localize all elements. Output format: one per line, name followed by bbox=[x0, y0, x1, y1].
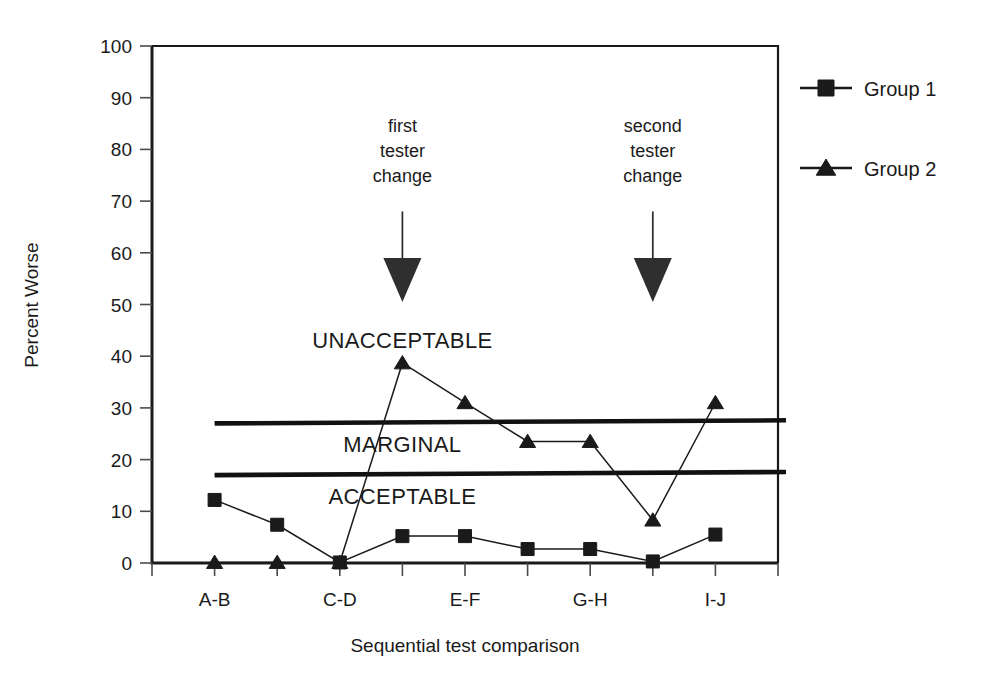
y-axis-title: Percent Worse bbox=[21, 242, 42, 367]
threshold-line-upper bbox=[215, 420, 786, 423]
tester-change-annotations: firsttesterchangesecondtesterchange bbox=[373, 116, 682, 302]
y-tick-label: 10 bbox=[111, 501, 132, 522]
legend-label: Group 1 bbox=[864, 78, 936, 100]
y-tick-label: 60 bbox=[111, 243, 132, 264]
annotation-text-line: tester bbox=[380, 141, 425, 161]
chart-canvas: 0102030405060708090100 A-BC-DE-FG-HI-J U… bbox=[0, 0, 987, 682]
annotation-arrow-head-icon bbox=[634, 258, 672, 302]
chart-figure: 0102030405060708090100 A-BC-DE-FG-HI-J U… bbox=[0, 0, 987, 682]
data-point-square bbox=[646, 555, 659, 568]
data-series bbox=[207, 356, 724, 569]
data-point-square bbox=[584, 543, 597, 556]
x-tick-label: A-B bbox=[199, 589, 231, 610]
annotation-text-line: change bbox=[623, 166, 682, 186]
y-tick-label: 50 bbox=[111, 295, 132, 316]
legend-label: Group 2 bbox=[864, 158, 936, 180]
data-point-square bbox=[459, 530, 472, 543]
chart-legend: Group 1Group 2 bbox=[800, 78, 936, 180]
data-point-triangle bbox=[645, 513, 661, 526]
y-tick-label: 40 bbox=[111, 346, 132, 367]
y-tick-label: 90 bbox=[111, 88, 132, 109]
y-tick-label: 30 bbox=[111, 398, 132, 419]
y-tick-label: 20 bbox=[111, 450, 132, 471]
y-tick-label: 0 bbox=[121, 553, 132, 574]
x-tick-label: E-F bbox=[450, 589, 481, 610]
data-point-square bbox=[709, 528, 722, 541]
zone-label: UNACCEPTABLE bbox=[312, 328, 492, 353]
data-point-square bbox=[521, 543, 534, 556]
x-axis-labels: A-BC-DE-FG-HI-J bbox=[199, 589, 726, 610]
annotation-arrow-head-icon bbox=[383, 258, 421, 302]
threshold-line-lower bbox=[215, 472, 786, 475]
zone-label: ACCEPTABLE bbox=[328, 484, 476, 509]
annotation-text-line: second bbox=[624, 116, 682, 136]
square-marker-icon bbox=[818, 80, 834, 96]
data-point-triangle bbox=[394, 356, 410, 369]
data-point-triangle bbox=[707, 395, 723, 408]
data-point-square bbox=[271, 518, 284, 531]
y-tick-label: 100 bbox=[100, 36, 132, 57]
annotation-text-line: tester bbox=[630, 141, 675, 161]
y-tick-label: 70 bbox=[111, 191, 132, 212]
data-point-square bbox=[396, 530, 409, 543]
threshold-lines bbox=[215, 420, 786, 475]
x-tick-label: C-D bbox=[323, 589, 357, 610]
x-tick-label: G-H bbox=[573, 589, 608, 610]
zone-label: MARGINAL bbox=[343, 432, 461, 457]
annotation-text-line: change bbox=[373, 166, 432, 186]
data-point-square bbox=[208, 493, 221, 506]
annotation-text-line: first bbox=[388, 116, 417, 136]
x-tick-label: I-J bbox=[705, 589, 726, 610]
data-point-triangle bbox=[457, 395, 473, 408]
x-axis-title: Sequential test comparison bbox=[350, 635, 579, 656]
x-axis-ticks bbox=[152, 563, 778, 576]
y-tick-label: 80 bbox=[111, 139, 132, 160]
y-axis: 0102030405060708090100 bbox=[100, 36, 152, 574]
